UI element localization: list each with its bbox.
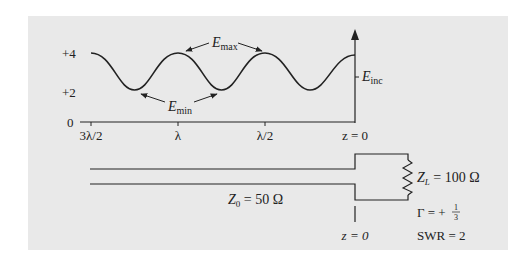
y-label-0: 0: [67, 115, 74, 130]
z0-label: Z0 = 50 Ω: [228, 192, 283, 209]
svg-text:Emin: Emin: [167, 99, 192, 116]
y-label-2: +2: [62, 85, 76, 100]
x-label-z0: z = 0: [342, 128, 368, 143]
svg-text:1: 1: [454, 203, 458, 212]
svg-text:Γ = +: Γ = +: [417, 205, 446, 220]
zl-label: ZL = 100 Ω: [417, 170, 480, 187]
transmission-line: [90, 154, 408, 222]
e-inc-label: Einc: [361, 69, 383, 86]
x-axis: [80, 122, 355, 126]
load-resistor-icon: [403, 160, 412, 195]
z-zero-label: z = 0: [341, 228, 369, 243]
e-min-annotation: Emin: [141, 94, 217, 116]
x-label-3lambda-2: 3λ/2: [80, 128, 103, 143]
gamma-label: Γ = + 1 3: [417, 203, 460, 222]
swr-label: SWR = 2: [417, 228, 466, 243]
axis-arrow-icon: [351, 29, 359, 40]
x-label-lambda-2: λ/2: [257, 128, 273, 143]
y-label-4: +4: [62, 46, 76, 61]
standing-wave-curve: [91, 53, 355, 90]
x-label-lambda: λ: [175, 128, 182, 143]
e-max-annotation: Emax: [186, 35, 262, 52]
figure: +4 +2 0 3λ/2 λ λ/2 z = 0 Emax Emin Einc …: [0, 0, 531, 265]
svg-text:3: 3: [454, 213, 458, 222]
svg-text:Emax: Emax: [211, 35, 238, 52]
y-axis: [351, 29, 359, 123]
